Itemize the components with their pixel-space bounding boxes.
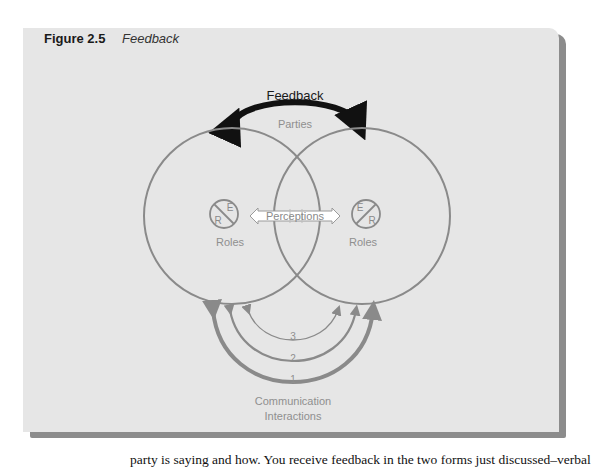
arc-1-label: 1 xyxy=(290,374,296,385)
arc-3-label: 3 xyxy=(290,331,296,342)
communication-label-line1: Communication xyxy=(255,395,331,407)
arc-2-label: 2 xyxy=(290,353,296,364)
right-roles-label: Roles xyxy=(349,236,378,248)
svg-text:R: R xyxy=(368,215,375,226)
right-role-icon: E R xyxy=(352,200,380,228)
parties-label: Parties xyxy=(278,118,313,130)
perceptions-label: Perceptions xyxy=(266,210,325,222)
communication-label-line2: Interactions xyxy=(265,410,322,422)
left-role-icon: E R xyxy=(210,200,238,228)
interaction-arc-1 xyxy=(213,310,373,382)
svg-text:R: R xyxy=(214,215,221,226)
left-roles-label: Roles xyxy=(216,236,245,248)
body-paragraph-line: party is saying and how. You receive fee… xyxy=(130,452,591,468)
svg-text:E: E xyxy=(227,202,234,213)
svg-text:E: E xyxy=(357,202,364,213)
